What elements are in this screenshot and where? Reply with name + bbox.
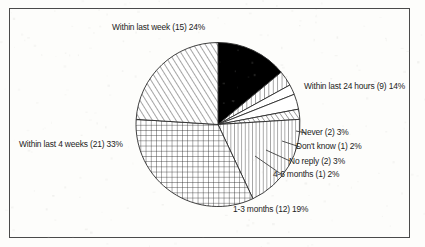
slice-label-no-reply: No reply (2) 3%: [289, 156, 345, 166]
pie-chart: [0, 0, 425, 247]
slice-label-1-3-months: 1-3 months (12) 19%: [233, 204, 308, 214]
figure-container: Within last week (15) 24% Within last 24…: [0, 0, 425, 247]
slice-label-within-last-week: Within last week (15) 24%: [112, 22, 205, 32]
slice-label-4-6-months: 4-6 months (1) 2%: [273, 169, 339, 179]
pie-slice: [136, 42, 218, 124]
pie-slices: [136, 42, 300, 206]
slice-label-never: Never (2) 3%: [301, 127, 349, 137]
slice-label-within-last-24-hours: Within last 24 hours (9) 14%: [304, 81, 405, 91]
slice-label-dont-know: Don't know (1) 2%: [296, 141, 362, 151]
slice-label-within-last-4-weeks: Within last 4 weeks (21) 33%: [19, 139, 123, 149]
